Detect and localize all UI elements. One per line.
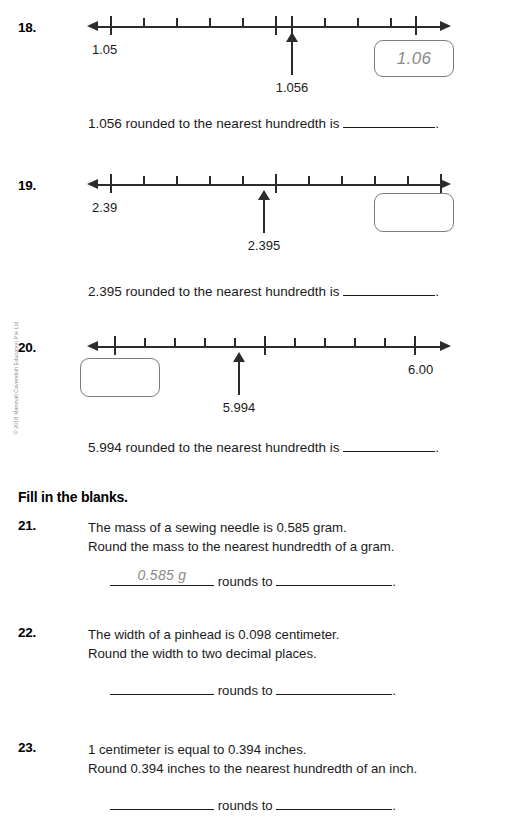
- tick-minor: [308, 176, 310, 185]
- handwritten-answer: 0.585 g: [110, 567, 214, 583]
- answer-box-18[interactable]: 1.06: [374, 40, 454, 77]
- arrow-right-icon: [440, 179, 451, 189]
- period: .: [392, 574, 396, 589]
- number-line-axis: [94, 184, 442, 186]
- answer-blank-second[interactable]: [276, 794, 392, 810]
- number-line-18: [88, 12, 450, 42]
- tick-minor: [354, 338, 356, 347]
- period: .: [435, 284, 439, 299]
- answer-blank-first[interactable]: [110, 794, 214, 810]
- question-number: 19.: [18, 178, 36, 193]
- tick-major: [275, 16, 277, 35]
- period: .: [435, 116, 439, 131]
- rounds-to-label: rounds to: [218, 574, 273, 589]
- question-number: 21.: [18, 518, 36, 533]
- answer-blank[interactable]: [343, 114, 435, 128]
- tick-major: [440, 174, 442, 193]
- tick-minor: [242, 176, 244, 185]
- question-text: The mass of a sewing needle is 0.585 gra…: [88, 518, 394, 556]
- tick-minor: [341, 176, 343, 185]
- section-heading: Fill in the blanks.: [18, 489, 128, 505]
- answer-box-20[interactable]: [80, 358, 160, 397]
- answer-blank-second[interactable]: [276, 570, 392, 586]
- number-line-right-label: 6.00: [408, 362, 433, 377]
- tick-minor: [357, 18, 359, 27]
- rounds-to-label: rounds to: [218, 798, 273, 813]
- period: .: [435, 440, 439, 455]
- tick-minor: [390, 18, 392, 27]
- question-line-2: Round 0.394 inches to the nearest hundre…: [88, 759, 417, 778]
- question-line-1: The width of a pinhead is 0.098 centimet…: [88, 625, 339, 644]
- tick-major: [275, 174, 277, 193]
- number-line-left-label: 1.05: [92, 42, 117, 57]
- answer-row-22: rounds to .: [110, 679, 396, 698]
- arrow-right-icon: [440, 21, 451, 31]
- tick-minor: [294, 338, 296, 347]
- arrow-left-icon: [87, 179, 98, 189]
- tick-minor: [234, 338, 236, 347]
- tick-minor: [176, 176, 178, 185]
- tick-minor: [209, 18, 211, 27]
- arrow-up-icon: [286, 32, 298, 42]
- tick-minor: [384, 338, 386, 347]
- tick-minor: [407, 176, 409, 185]
- question-text: The width of a pinhead is 0.098 centimet…: [88, 625, 339, 663]
- answer-blank-second[interactable]: [276, 679, 392, 695]
- statement-text: 5.994 rounded to the nearest hundredth i…: [88, 440, 339, 455]
- tick-major: [414, 336, 416, 355]
- answer-blank-first[interactable]: 0.585 g: [110, 570, 214, 586]
- tick-minor: [374, 176, 376, 185]
- period: .: [392, 798, 396, 813]
- pointer-arrow-20: [238, 361, 240, 395]
- statement-19: 2.395 rounded to the nearest hundredth i…: [88, 282, 439, 299]
- tick-minor: [209, 176, 211, 185]
- question-text: 1 centimeter is equal to 0.394 inches. R…: [88, 740, 417, 778]
- answer-box-19[interactable]: [374, 193, 454, 232]
- statement-18: 1.056 rounded to the nearest hundredth i…: [88, 114, 439, 131]
- rounds-to-label: rounds to: [218, 683, 273, 698]
- tick-major: [114, 336, 116, 355]
- tick-minor: [324, 18, 326, 27]
- tick-minor: [204, 338, 206, 347]
- statement-text: 2.395 rounded to the nearest hundredth i…: [88, 284, 339, 299]
- answer-row-21: 0.585 g rounds to .: [110, 570, 396, 589]
- question-line-1: 1 centimeter is equal to 0.394 inches.: [88, 740, 417, 759]
- statement-20: 5.994 rounded to the nearest hundredth i…: [88, 438, 439, 455]
- tick-minor: [143, 176, 145, 185]
- answer-blank[interactable]: [343, 438, 435, 452]
- arrow-up-icon: [258, 190, 270, 200]
- tick-minor: [174, 338, 176, 347]
- tick-minor: [242, 18, 244, 27]
- number-line-axis: [94, 346, 442, 348]
- tick-minor: [144, 338, 146, 347]
- question-number: 20.: [18, 340, 36, 355]
- tick-minor: [143, 18, 145, 27]
- pointer-label: 2.395: [248, 238, 281, 253]
- tick-major: [110, 16, 112, 35]
- pointer-arrow-18: [291, 41, 293, 75]
- question-line-1: The mass of a sewing needle is 0.585 gra…: [88, 518, 394, 537]
- question-line-2: Round the width to two decimal places.: [88, 644, 339, 663]
- arrow-left-icon: [87, 341, 98, 351]
- tick-major: [110, 174, 112, 193]
- arrow-right-icon: [440, 341, 451, 351]
- period: .: [392, 683, 396, 698]
- pointer-label: 5.994: [223, 400, 256, 415]
- question-number: 22.: [18, 625, 36, 640]
- copyright-notice: © 2018 Marshall Cavendish Education Pte …: [13, 318, 19, 438]
- answer-blank-first[interactable]: [110, 679, 214, 695]
- answer-blank[interactable]: [343, 282, 435, 296]
- answer-box-value: 1.06: [375, 49, 453, 69]
- question-number: 23.: [18, 740, 36, 755]
- statement-text: 1.056 rounded to the nearest hundredth i…: [88, 116, 339, 131]
- pointer-label: 1.056: [276, 80, 309, 95]
- tick-major: [415, 16, 417, 35]
- tick-major: [264, 336, 266, 355]
- question-number: 18.: [18, 20, 36, 35]
- question-line-2: Round the mass to the nearest hundredth …: [88, 537, 394, 556]
- arrow-left-icon: [87, 21, 98, 31]
- pointer-arrow-19: [263, 199, 265, 233]
- number-line-left-label: 2.39: [92, 200, 117, 215]
- answer-row-23: rounds to .: [110, 794, 396, 813]
- tick-minor: [324, 338, 326, 347]
